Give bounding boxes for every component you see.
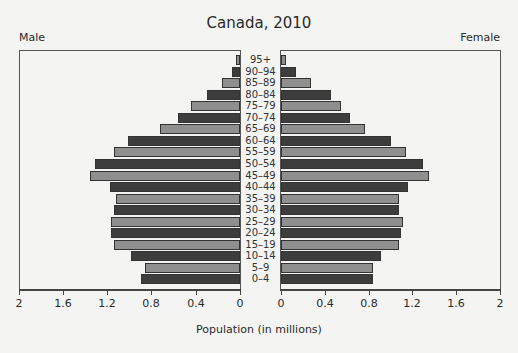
female-bar — [281, 159, 423, 169]
female-x-axis — [280, 289, 501, 291]
female-bar — [281, 217, 403, 227]
female-bar — [281, 274, 373, 284]
female-bar — [281, 263, 373, 273]
female-bar — [281, 67, 296, 77]
female-bar — [281, 136, 391, 146]
male-bar — [236, 55, 240, 65]
x-tick-label: 0.8 — [136, 297, 166, 310]
male-bar — [131, 251, 240, 261]
age-group-label: 10–14 — [241, 250, 280, 262]
x-tick-label: 0.4 — [181, 297, 211, 310]
x-tick-label: 1.2 — [92, 297, 122, 310]
male-bar — [191, 101, 240, 111]
male-bar — [90, 171, 240, 181]
male-bar — [128, 136, 240, 146]
female-bar — [281, 113, 350, 123]
female-bar — [281, 228, 401, 238]
age-group-label: 30–34 — [241, 204, 280, 216]
male-label: Male — [19, 31, 45, 44]
x-tick-label: 0.4 — [310, 297, 340, 310]
x-tick — [63, 289, 64, 295]
x-tick — [196, 289, 197, 295]
x-tick-label: 1.6 — [48, 297, 78, 310]
x-tick-label: 1.2 — [397, 297, 427, 310]
age-group-label: 15–19 — [241, 239, 280, 251]
x-tick-label: 0 — [225, 297, 255, 310]
male-bar — [178, 113, 240, 123]
female-bar — [281, 101, 341, 111]
x-tick-label: 2 — [4, 297, 34, 310]
female-bar — [281, 205, 399, 215]
male-bar — [145, 263, 240, 273]
age-group-label: 25–29 — [241, 216, 280, 228]
male-bar — [114, 240, 240, 250]
female-bar — [281, 78, 311, 88]
age-group-label: 95+ — [241, 54, 280, 66]
male-bar — [141, 274, 240, 284]
age-group-label: 80–84 — [241, 89, 280, 101]
x-tick — [240, 289, 241, 295]
chart-title: Canada, 2010 — [0, 14, 518, 32]
female-bar — [281, 90, 331, 100]
female-bar — [281, 147, 406, 157]
male-bar — [95, 159, 240, 169]
female-bar — [281, 171, 429, 181]
female-label: Female — [460, 31, 500, 44]
female-bar — [281, 124, 365, 134]
age-group-label: 5–9 — [241, 262, 280, 274]
x-axis-label: Population (in millions) — [0, 323, 518, 336]
male-bar — [111, 228, 240, 238]
x-tick — [412, 289, 413, 295]
age-group-label: 0–4 — [241, 273, 280, 285]
x-tick — [369, 289, 370, 295]
age-group-label: 65–69 — [241, 123, 280, 135]
x-tick — [19, 289, 20, 295]
x-tick — [281, 289, 282, 295]
age-group-label: 55–59 — [241, 146, 280, 158]
female-bar — [281, 240, 399, 250]
age-group-label: 40–44 — [241, 181, 280, 193]
age-group-label: 45–49 — [241, 170, 280, 182]
female-bar — [281, 251, 381, 261]
age-group-label: 35–39 — [241, 193, 280, 205]
age-group-label: 75–79 — [241, 100, 280, 112]
male-bar — [222, 78, 240, 88]
x-tick — [456, 289, 457, 295]
male-bar — [110, 182, 240, 192]
age-group-label: 85–89 — [241, 77, 280, 89]
male-bar — [111, 217, 240, 227]
male-bar — [114, 147, 240, 157]
male-bar — [232, 67, 240, 77]
female-bar — [281, 182, 408, 192]
x-tick — [151, 289, 152, 295]
x-tick-label: 2 — [485, 297, 515, 310]
x-tick — [107, 289, 108, 295]
x-tick — [500, 289, 501, 295]
female-bar — [281, 194, 399, 204]
age-group-label: 60–64 — [241, 135, 280, 147]
x-tick-label: 0.8 — [354, 297, 384, 310]
age-group-label: 50–54 — [241, 158, 280, 170]
male-bar — [207, 90, 240, 100]
age-group-label: 90–94 — [241, 66, 280, 78]
male-bar — [114, 205, 240, 215]
x-tick-label: 0 — [266, 297, 296, 310]
male-bar — [160, 124, 240, 134]
x-tick — [325, 289, 326, 295]
male-bar — [116, 194, 240, 204]
x-tick-label: 1.6 — [441, 297, 471, 310]
female-bar — [281, 55, 286, 65]
male-x-axis — [19, 289, 241, 291]
age-group-label: 70–74 — [241, 112, 280, 124]
age-group-label: 20–24 — [241, 227, 280, 239]
